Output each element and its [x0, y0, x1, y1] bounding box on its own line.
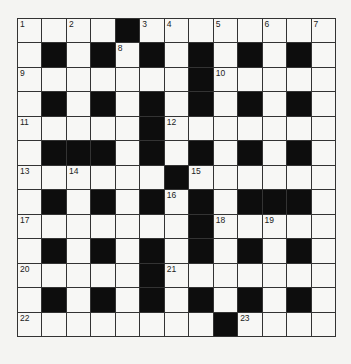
grid-cell[interactable]: [18, 43, 41, 66]
grid-cell[interactable]: 22: [18, 313, 41, 336]
grid-cell[interactable]: [189, 313, 212, 336]
grid-cell[interactable]: 17: [18, 215, 41, 238]
grid-cell[interactable]: [116, 239, 139, 262]
grid-cell[interactable]: [312, 166, 335, 189]
grid-cell[interactable]: [214, 92, 237, 115]
grid-cell[interactable]: [18, 288, 41, 311]
grid-cell[interactable]: [165, 313, 188, 336]
grid-cell[interactable]: [42, 313, 65, 336]
grid-cell[interactable]: [67, 43, 90, 66]
grid-cell[interactable]: [238, 19, 261, 42]
grid-cell[interactable]: [165, 92, 188, 115]
grid-cell[interactable]: [91, 166, 114, 189]
grid-cell[interactable]: [287, 264, 310, 287]
grid-cell[interactable]: [140, 166, 163, 189]
grid-cell[interactable]: [18, 92, 41, 115]
grid-cell[interactable]: 16: [165, 190, 188, 213]
grid-cell[interactable]: [312, 215, 335, 238]
grid-cell[interactable]: [238, 117, 261, 140]
grid-cell[interactable]: [67, 264, 90, 287]
grid-cell[interactable]: [287, 19, 310, 42]
grid-cell[interactable]: [312, 117, 335, 140]
grid-cell[interactable]: [287, 68, 310, 91]
grid-cell[interactable]: [312, 92, 335, 115]
grid-cell[interactable]: [116, 264, 139, 287]
grid-cell[interactable]: [263, 117, 286, 140]
grid-cell[interactable]: [91, 313, 114, 336]
grid-cell[interactable]: [263, 43, 286, 66]
grid-cell[interactable]: [67, 215, 90, 238]
grid-cell[interactable]: [312, 190, 335, 213]
grid-cell[interactable]: [238, 215, 261, 238]
grid-cell[interactable]: [287, 117, 310, 140]
grid-cell[interactable]: [67, 313, 90, 336]
grid-cell[interactable]: 2: [67, 19, 90, 42]
grid-cell[interactable]: [42, 215, 65, 238]
grid-cell[interactable]: 9: [18, 68, 41, 91]
grid-cell[interactable]: [263, 141, 286, 164]
grid-cell[interactable]: [116, 68, 139, 91]
grid-cell[interactable]: 14: [67, 166, 90, 189]
grid-cell[interactable]: 13: [18, 166, 41, 189]
grid-cell[interactable]: 15: [189, 166, 212, 189]
grid-cell[interactable]: 10: [214, 68, 237, 91]
grid-cell[interactable]: [287, 313, 310, 336]
grid-cell[interactable]: [67, 68, 90, 91]
grid-cell[interactable]: [67, 190, 90, 213]
grid-cell[interactable]: [214, 239, 237, 262]
grid-cell[interactable]: [189, 264, 212, 287]
grid-cell[interactable]: [312, 288, 335, 311]
grid-cell[interactable]: [116, 92, 139, 115]
grid-cell[interactable]: [312, 141, 335, 164]
grid-cell[interactable]: [116, 288, 139, 311]
grid-cell[interactable]: [263, 313, 286, 336]
grid-cell[interactable]: 23: [238, 313, 261, 336]
grid-cell[interactable]: 12: [165, 117, 188, 140]
grid-cell[interactable]: [312, 313, 335, 336]
grid-cell[interactable]: [263, 92, 286, 115]
grid-cell[interactable]: [18, 141, 41, 164]
grid-cell[interactable]: [91, 215, 114, 238]
grid-cell[interactable]: [238, 166, 261, 189]
grid-cell[interactable]: 1: [18, 19, 41, 42]
grid-cell[interactable]: [189, 117, 212, 140]
grid-cell[interactable]: [312, 264, 335, 287]
grid-cell[interactable]: [238, 68, 261, 91]
grid-cell[interactable]: [18, 239, 41, 262]
grid-cell[interactable]: [287, 166, 310, 189]
grid-cell[interactable]: [165, 215, 188, 238]
grid-cell[interactable]: [140, 215, 163, 238]
grid-cell[interactable]: [214, 190, 237, 213]
grid-cell[interactable]: [91, 19, 114, 42]
grid-cell[interactable]: 8: [116, 43, 139, 66]
grid-cell[interactable]: [116, 190, 139, 213]
grid-cell[interactable]: 21: [165, 264, 188, 287]
grid-cell[interactable]: [42, 117, 65, 140]
grid-cell[interactable]: 3: [140, 19, 163, 42]
grid-cell[interactable]: [67, 239, 90, 262]
grid-cell[interactable]: 19: [263, 215, 286, 238]
grid-cell[interactable]: 6: [263, 19, 286, 42]
grid-cell[interactable]: [312, 239, 335, 262]
grid-cell[interactable]: [116, 141, 139, 164]
grid-cell[interactable]: [165, 239, 188, 262]
grid-cell[interactable]: [263, 264, 286, 287]
grid-cell[interactable]: 5: [214, 19, 237, 42]
grid-cell[interactable]: [263, 166, 286, 189]
grid-cell[interactable]: 7: [312, 19, 335, 42]
grid-cell[interactable]: [165, 43, 188, 66]
grid-cell[interactable]: 18: [214, 215, 237, 238]
grid-cell[interactable]: [214, 117, 237, 140]
grid-cell[interactable]: [263, 239, 286, 262]
grid-cell[interactable]: [214, 166, 237, 189]
grid-cell[interactable]: [214, 288, 237, 311]
grid-cell[interactable]: [67, 117, 90, 140]
grid-cell[interactable]: [42, 264, 65, 287]
grid-cell[interactable]: [116, 215, 139, 238]
grid-cell[interactable]: [116, 166, 139, 189]
grid-cell[interactable]: [140, 68, 163, 91]
grid-cell[interactable]: [91, 264, 114, 287]
grid-cell[interactable]: [165, 288, 188, 311]
grid-cell[interactable]: [165, 141, 188, 164]
grid-cell[interactable]: [116, 117, 139, 140]
